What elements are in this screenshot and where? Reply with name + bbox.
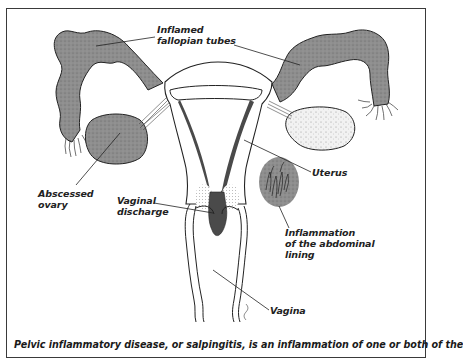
- label-line: lining: [285, 249, 375, 260]
- right-ovary: [286, 107, 355, 150]
- label-line: ovary: [38, 199, 94, 210]
- label-line: Inflamed: [157, 24, 236, 35]
- label-fallopian-tubes: Inflamed fallopian tubes: [157, 24, 236, 46]
- left-ovary: [85, 114, 147, 164]
- label-uterus: Uterus: [312, 167, 347, 178]
- label-vagina: Vagina: [270, 305, 306, 316]
- label-line: Vaginal: [117, 195, 169, 206]
- label-abdominal-lining: Inflammation of the abdominal lining: [285, 227, 375, 260]
- discharge: [209, 192, 227, 236]
- label-abscessed-ovary: Abscessed ovary: [38, 188, 94, 210]
- label-line: fallopian tubes: [157, 35, 236, 46]
- label-line: of the abdominal: [285, 238, 375, 249]
- figure-caption: Pelvic inflammatory disease, or salpingi…: [14, 339, 463, 350]
- label-line: discharge: [117, 206, 169, 217]
- uterine-cavity: [170, 86, 262, 101]
- abdominal-lining-patch: [259, 157, 299, 207]
- label-vaginal-discharge: Vaginal discharge: [117, 195, 169, 217]
- uterus-outline: [165, 62, 272, 204]
- right-fallopian-tube: [272, 30, 398, 120]
- label-line: Inflammation: [285, 227, 375, 238]
- label-line: Abscessed: [38, 188, 94, 199]
